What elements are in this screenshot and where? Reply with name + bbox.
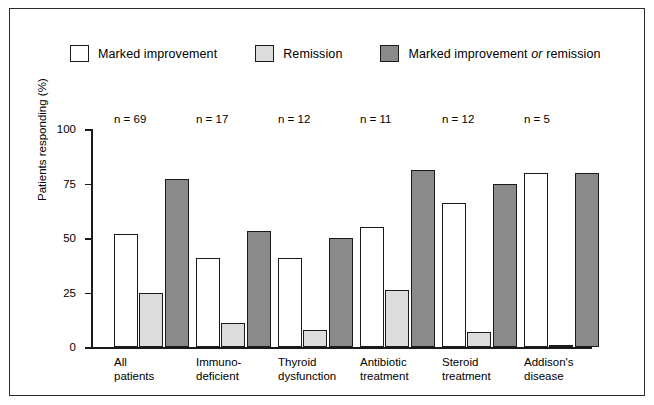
y-tick-25: 25: [85, 293, 91, 295]
bar-combined-4: [493, 184, 517, 348]
bar-remission-5: [549, 345, 573, 347]
legend-swatch-light-grey-icon: [255, 45, 274, 62]
bar-group-thyroid-dysfunction: n = 12 Thyroid dysfunction: [278, 129, 364, 347]
legend-label-remission: Remission: [283, 47, 342, 61]
y-tick-label-50: 50: [63, 232, 76, 244]
bar-group-addisons-disease: n = 5 Addison's disease: [524, 129, 610, 347]
x-tick-label-2-line2: dysfunction: [278, 369, 368, 383]
y-tick-100: 100: [85, 129, 91, 131]
bar-marked-improvement-5: [524, 173, 548, 347]
x-tick-label-4-line1: Steroid: [442, 355, 532, 369]
bar-remission-2: [303, 330, 327, 347]
bar-group-steroid-treatment: n = 12 Steroid treatment: [442, 129, 528, 347]
bar-marked-improvement-2: [278, 258, 302, 347]
bar-group-antibiotic-treatment: n = 11 Antibiotic treatment: [360, 129, 446, 347]
group-n-label-5: n = 5: [524, 113, 550, 125]
group-n-label-3: n = 11: [360, 113, 391, 125]
y-axis-title: Patients responding (%): [36, 51, 48, 201]
x-tick-label-1: Immuno- deficient: [196, 355, 286, 383]
y-tick-label-75: 75: [63, 178, 76, 190]
legend-label-combined: Marked improvement or remission: [408, 47, 600, 61]
x-tick-label-0: All patients: [114, 355, 204, 383]
bar-combined-5: [575, 173, 599, 347]
x-tick-label-5-line1: Addison's: [524, 355, 614, 369]
x-tick-label-5-line2: disease: [524, 369, 614, 383]
x-tick-label-4: Steroid treatment: [442, 355, 532, 383]
bar-remission-3: [385, 290, 409, 347]
legend-label-marked-improvement: Marked improvement: [98, 47, 217, 61]
x-tick-label-5: Addison's disease: [524, 355, 614, 383]
group-n-label-1: n = 17: [196, 113, 228, 125]
legend-entry-marked-improvement-or-remission: Marked improvement or remission: [380, 45, 600, 62]
y-tick-label-25: 25: [63, 287, 76, 299]
x-tick-label-0-line1: All: [114, 355, 204, 369]
bar-marked-improvement-4: [442, 203, 466, 347]
bar-combined-3: [411, 170, 435, 347]
x-tick-label-4-line2: treatment: [442, 369, 532, 383]
bar-marked-improvement-1: [196, 258, 220, 347]
bar-combined-1: [247, 231, 271, 347]
x-tick-label-2-line1: Thyroid: [278, 355, 368, 369]
y-tick-75: 75: [85, 184, 91, 186]
bar-remission-4: [467, 332, 491, 347]
bar-marked-improvement-3: [360, 227, 384, 347]
figure-frame: Marked improvement Remission Marked impr…: [9, 8, 645, 396]
y-tick-0: 0: [85, 347, 91, 349]
x-tick-label-3: Antibiotic treatment: [360, 355, 450, 383]
chart-legend: Marked improvement Remission Marked impr…: [70, 45, 639, 62]
x-tick-label-0-line2: patients: [114, 369, 204, 383]
legend-swatch-white-icon: [70, 45, 89, 62]
group-n-label-4: n = 12: [442, 113, 474, 125]
bar-combined-0: [165, 179, 189, 347]
legend-label-combined-or: or: [531, 47, 542, 61]
x-axis: [91, 347, 592, 349]
y-tick-label-100: 100: [57, 123, 76, 135]
legend-swatch-dark-grey-icon: [380, 45, 399, 62]
bar-remission-1: [221, 323, 245, 347]
y-tick-label-0: 0: [70, 341, 76, 353]
bar-remission-0: [139, 293, 163, 348]
x-tick-label-1-line2: deficient: [196, 369, 286, 383]
x-tick-label-3-line2: treatment: [360, 369, 450, 383]
group-n-label-2: n = 12: [278, 113, 310, 125]
y-axis: [91, 129, 93, 347]
x-tick-label-1-line1: Immuno-: [196, 355, 286, 369]
legend-label-combined-head: Marked improvement: [408, 47, 531, 61]
legend-label-combined-tail: remission: [543, 47, 601, 61]
x-tick-label-3-line1: Antibiotic: [360, 355, 450, 369]
bar-group-all-patients: n = 69 All patients: [114, 129, 200, 347]
group-n-label-0: n = 69: [114, 113, 146, 125]
x-tick-label-2: Thyroid dysfunction: [278, 355, 368, 383]
y-tick-50: 50: [85, 238, 91, 240]
legend-entry-marked-improvement: Marked improvement: [70, 45, 217, 62]
legend-entry-remission: Remission: [255, 45, 342, 62]
figure: Marked improvement Remission Marked impr…: [0, 0, 654, 405]
bar-group-immunodeficient: n = 17 Immuno- deficient: [196, 129, 282, 347]
bar-marked-improvement-0: [114, 234, 138, 347]
plot-area: 0 25 50 75 100 n = 69 All: [91, 129, 592, 347]
bar-combined-2: [329, 238, 353, 347]
